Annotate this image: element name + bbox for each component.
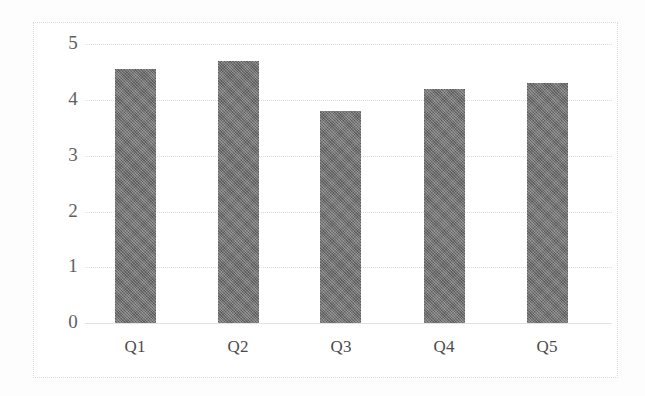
gridline-5 xyxy=(85,44,612,46)
plot-area: 5 4 3 2 1 0 Q1 Q2 Q3 Q4 Q5 xyxy=(0,0,645,396)
xtick-label-q3: Q3 xyxy=(296,338,386,355)
xtick-label-q2: Q2 xyxy=(193,338,283,355)
bar-chart-figure: 5 4 3 2 1 0 Q1 Q2 Q3 Q4 Q5 xyxy=(0,0,645,396)
bar-q5[interactable] xyxy=(527,83,568,323)
bar-q2[interactable] xyxy=(218,61,259,323)
bar-q4[interactable] xyxy=(424,89,465,323)
bar-q1[interactable] xyxy=(115,69,156,323)
ytick-label-5: 5 xyxy=(50,33,78,52)
xtick-label-q4: Q4 xyxy=(399,338,489,355)
xtick-label-q1: Q1 xyxy=(90,338,180,355)
gridline-0-baseline xyxy=(85,323,612,325)
ytick-label-2: 2 xyxy=(50,201,78,220)
ytick-label-1: 1 xyxy=(50,256,78,275)
bar-q3[interactable] xyxy=(320,111,361,323)
ytick-label-3: 3 xyxy=(50,145,78,164)
ytick-label-4: 4 xyxy=(50,89,78,108)
xtick-label-q5: Q5 xyxy=(502,338,592,355)
ytick-label-0: 0 xyxy=(50,312,78,331)
